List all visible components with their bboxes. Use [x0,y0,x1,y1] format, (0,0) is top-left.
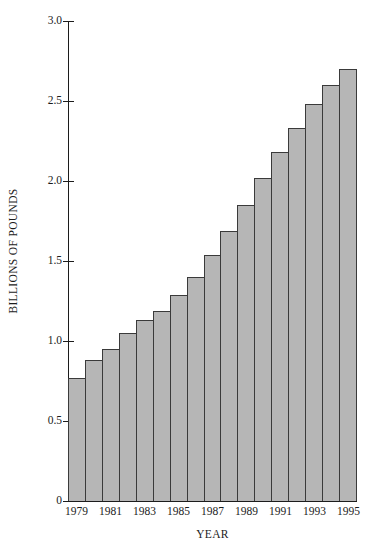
bar [220,231,238,501]
x-tick-label: 1981 [99,504,122,518]
bar-series [68,21,357,501]
x-tick-label: 1983 [133,504,156,518]
bar [102,349,120,501]
x-axis-tick-labels: 197919811983198519871989199119931995 [68,504,357,524]
bar [288,128,306,501]
x-axis-title: YEAR [68,528,357,540]
bar [170,295,188,501]
bar [85,360,103,501]
bar [204,255,222,501]
bar [153,311,171,501]
x-tick-label: 1991 [269,504,292,518]
bar [322,85,340,501]
x-tick-label: 1979 [65,504,88,518]
x-tick-label: 1987 [201,504,224,518]
bar [187,277,205,501]
bar [339,69,357,501]
bar [305,104,323,501]
bar [68,378,86,501]
x-tick-label: 1993 [303,504,326,518]
x-tick-label: 1985 [167,504,190,518]
x-tick-label: 1995 [337,504,360,518]
bar-chart: BILLIONS OF POUNDS 00.51.01.52.02.53.0 1… [0,0,383,556]
bar [271,152,289,501]
x-tick-label: 1989 [235,504,258,518]
bar [136,320,154,501]
bar [254,178,272,501]
bar [119,333,137,501]
bar [237,205,255,501]
